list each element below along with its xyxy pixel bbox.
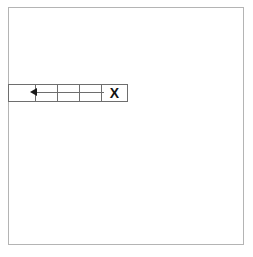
strip-cell-3[interactable] bbox=[80, 85, 102, 101]
strip-cell-1[interactable] bbox=[36, 85, 58, 101]
horizontal-cell-strip[interactable]: X bbox=[8, 84, 128, 102]
left-arrow-shaft bbox=[33, 92, 104, 93]
strip-cell-close[interactable]: X bbox=[102, 85, 127, 101]
strip-cell-2[interactable] bbox=[58, 85, 80, 101]
drawing-area[interactable] bbox=[8, 7, 244, 245]
close-x-icon: X bbox=[110, 86, 119, 100]
canvas: X bbox=[0, 0, 253, 257]
left-arrow-icon bbox=[30, 88, 37, 96]
